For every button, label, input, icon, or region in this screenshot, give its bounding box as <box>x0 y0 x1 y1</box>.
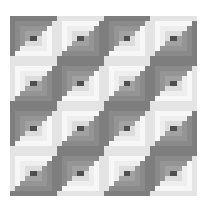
log-strip <box>47 116 52 146</box>
log-strip <box>140 26 145 56</box>
quilt-block <box>10 106 57 151</box>
quilt-block <box>104 61 151 106</box>
log-strip <box>182 76 187 96</box>
log-strip <box>192 21 197 61</box>
log-strip <box>104 191 151 196</box>
log-strip <box>192 111 197 151</box>
center-square <box>124 126 131 131</box>
log-strip <box>187 71 192 101</box>
log-strip <box>47 26 52 56</box>
quilt-block <box>10 61 57 106</box>
log-strip <box>84 36 89 46</box>
log-strip <box>37 81 42 91</box>
log-strip <box>130 126 135 136</box>
center-square <box>30 81 37 86</box>
log-strip <box>94 71 99 101</box>
log-strip <box>140 116 145 146</box>
center-square <box>170 81 177 86</box>
log-strip <box>135 31 140 51</box>
log-strip <box>89 121 94 141</box>
center-square <box>170 36 177 41</box>
log-strip <box>187 161 192 191</box>
quilt-block <box>57 16 104 61</box>
log-strip <box>42 121 47 141</box>
log-strip <box>37 126 42 136</box>
log-strip <box>140 161 145 191</box>
quilt-block <box>150 151 197 196</box>
log-strip <box>177 81 182 91</box>
log-strip <box>42 166 47 186</box>
quilt-block <box>104 16 151 61</box>
quilt-block <box>150 106 197 151</box>
quilt-block <box>104 106 151 151</box>
quilt-block <box>150 61 197 106</box>
quilt-block <box>104 151 151 196</box>
log-strip <box>89 76 94 96</box>
log-strip <box>187 26 192 56</box>
center-square <box>77 36 84 41</box>
center-square <box>124 81 131 86</box>
log-strip <box>84 126 89 136</box>
quilt-block <box>10 151 57 196</box>
log-strip <box>57 191 104 196</box>
log-strip <box>89 166 94 186</box>
log-strip <box>135 121 140 141</box>
center-square <box>77 81 84 86</box>
log-strip <box>89 31 94 51</box>
log-strip <box>47 71 52 101</box>
log-strip <box>130 171 135 181</box>
log-strip <box>37 36 42 46</box>
center-square <box>30 36 37 41</box>
quilt-block <box>57 151 104 196</box>
log-strip <box>192 156 197 196</box>
quilt-block <box>57 106 104 151</box>
log-strip <box>84 171 89 181</box>
log-strip <box>47 161 52 191</box>
center-square <box>170 126 177 131</box>
log-strip <box>42 76 47 96</box>
quilt-block <box>150 16 197 61</box>
log-strip <box>42 31 47 51</box>
center-square <box>77 126 84 131</box>
log-strip <box>187 116 192 146</box>
log-strip <box>150 191 197 196</box>
log-strip <box>177 126 182 136</box>
center-square <box>30 126 37 131</box>
log-strip <box>192 66 197 106</box>
log-strip <box>182 31 187 51</box>
log-strip <box>94 116 99 146</box>
log-strip <box>135 166 140 186</box>
log-strip <box>177 171 182 181</box>
center-square <box>30 171 37 176</box>
log-strip <box>94 26 99 56</box>
log-strip <box>37 171 42 181</box>
log-strip <box>130 81 135 91</box>
log-strip <box>84 81 89 91</box>
log-strip <box>10 191 57 196</box>
center-square <box>124 36 131 41</box>
log-strip <box>177 36 182 46</box>
log-strip <box>140 71 145 101</box>
quilt-block <box>10 16 57 61</box>
quilt-image <box>10 16 197 196</box>
log-strip <box>135 76 140 96</box>
quilt-block <box>57 61 104 106</box>
log-strip <box>182 121 187 141</box>
log-strip <box>182 166 187 186</box>
log-strip <box>94 161 99 191</box>
center-square <box>77 171 84 176</box>
center-square <box>124 171 131 176</box>
center-square <box>170 171 177 176</box>
log-strip <box>130 36 135 46</box>
